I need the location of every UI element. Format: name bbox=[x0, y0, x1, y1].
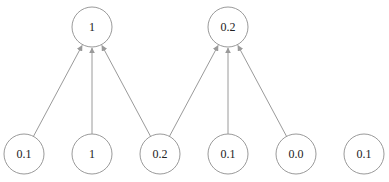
edge-arrow bbox=[238, 46, 287, 137]
top-node-1: 0.2 bbox=[208, 7, 248, 47]
node-label: 1 bbox=[89, 20, 95, 34]
bottom-node-0: 0.1 bbox=[4, 134, 44, 174]
node-label: 0.1 bbox=[221, 147, 236, 161]
node-label: 0.1 bbox=[17, 147, 32, 161]
node-label: 0.0 bbox=[289, 147, 304, 161]
edge-arrow bbox=[169, 46, 218, 137]
edge-arrow bbox=[33, 46, 82, 137]
bottom-node-1: 1 bbox=[72, 134, 112, 174]
node-label: 0.2 bbox=[153, 147, 168, 161]
pooling-diagram: 1 0.2 0.1 1 0.2 0.1 0.0 0.1 bbox=[0, 0, 389, 182]
node-label: 0.1 bbox=[357, 147, 372, 161]
node-label: 0.2 bbox=[221, 20, 236, 34]
bottom-node-3: 0.1 bbox=[208, 134, 248, 174]
top-node-0: 1 bbox=[72, 7, 112, 47]
bottom-node-5: 0.1 bbox=[344, 134, 384, 174]
edges bbox=[33, 46, 286, 137]
bottom-node-2: 0.2 bbox=[140, 134, 180, 174]
edge-arrow bbox=[102, 46, 151, 137]
bottom-node-4: 0.0 bbox=[276, 134, 316, 174]
node-label: 1 bbox=[89, 147, 95, 161]
